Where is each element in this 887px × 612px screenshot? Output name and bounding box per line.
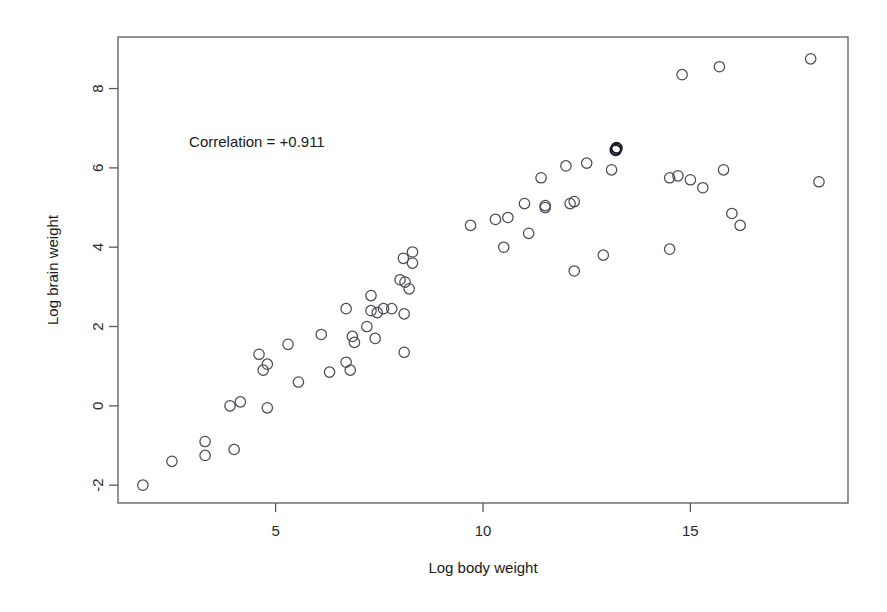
data-point [200, 450, 210, 460]
data-point [569, 266, 579, 276]
x-tick-label-5: 5 [271, 522, 279, 539]
data-point [519, 198, 529, 208]
y-tick-label-8: 8 [90, 84, 107, 92]
plot-frame [118, 37, 848, 503]
y-tick-label--2: -2 [90, 478, 107, 491]
data-point [735, 220, 745, 230]
y-axis-title: Log brain weight [44, 214, 61, 325]
y-tick-label-6: 6 [90, 164, 107, 172]
data-point [598, 250, 608, 260]
data-point [407, 247, 417, 257]
scatter-plot-figure: 51015 -202468 Correlation = +0.911 Log b… [0, 0, 887, 612]
data-point [714, 62, 724, 72]
data-point [685, 175, 695, 185]
y-axis-tick-labels: -202468 [90, 84, 107, 491]
x-tick-label-10: 10 [475, 522, 492, 539]
y-axis-tickmarks [109, 89, 118, 486]
data-point [138, 480, 148, 490]
data-point [399, 309, 409, 319]
data-point [677, 69, 687, 79]
data-point [523, 228, 533, 238]
data-point [345, 365, 355, 375]
y-tick-label-2: 2 [90, 322, 107, 330]
data-point [399, 347, 409, 357]
data-point [370, 333, 380, 343]
data-point [561, 161, 571, 171]
data-point [235, 397, 245, 407]
plot-canvas: 51015 -202468 Correlation = +0.911 Log b… [0, 0, 887, 612]
x-axis-title: Log body weight [428, 559, 538, 576]
data-point [324, 367, 334, 377]
x-axis-tick-labels: 51015 [271, 522, 698, 539]
data-point [805, 54, 815, 64]
scatter-markers-group [138, 54, 824, 491]
data-point [167, 456, 177, 466]
data-point [536, 173, 546, 183]
data-point [254, 349, 264, 359]
data-point [362, 321, 372, 331]
correlation-annotation: Correlation = +0.911 [189, 133, 325, 150]
data-point [407, 258, 417, 268]
data-point [465, 220, 475, 230]
data-point [293, 377, 303, 387]
data-point [341, 357, 351, 367]
y-tick-label-0: 0 [90, 402, 107, 410]
data-point [200, 436, 210, 446]
x-axis-tickmarks [276, 503, 691, 512]
data-point [366, 290, 376, 300]
data-point [581, 158, 591, 168]
data-point [347, 331, 357, 341]
data-point [499, 242, 509, 252]
data-point [727, 208, 737, 218]
data-point [225, 401, 235, 411]
data-point [262, 403, 272, 413]
data-point [503, 212, 513, 222]
data-point [814, 177, 824, 187]
data-point [698, 183, 708, 193]
data-point [606, 165, 616, 175]
x-tick-label-15: 15 [682, 522, 699, 539]
data-point [341, 303, 351, 313]
data-point [316, 329, 326, 339]
data-point [229, 444, 239, 454]
data-point [490, 214, 500, 224]
data-point [283, 339, 293, 349]
y-tick-label-4: 4 [90, 243, 107, 251]
data-point [366, 305, 376, 315]
data-point [664, 244, 674, 254]
data-point [349, 337, 359, 347]
data-point [718, 165, 728, 175]
